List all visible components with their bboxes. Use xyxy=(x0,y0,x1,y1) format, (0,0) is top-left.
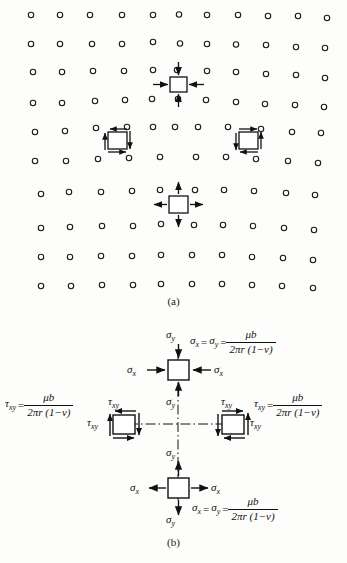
compression-element xyxy=(153,62,204,107)
caption-a: (a) xyxy=(0,295,347,307)
tau-xy-left-side: τxy xyxy=(87,417,98,431)
tension-element xyxy=(154,182,203,227)
shear-element-right xyxy=(236,129,261,152)
sigma-x-left-lower: σx xyxy=(130,482,139,496)
shear-element-right-b xyxy=(218,411,248,438)
panel-a-graphics xyxy=(0,0,347,563)
sigma-y-bottom-lower: σy xyxy=(166,514,175,528)
equation-tau-right: τxy = μb 2πr (1−v) xyxy=(254,392,322,418)
equation-tau-left: τxy = μb 2πr (1−v) xyxy=(5,392,73,418)
sigma-y-top-lower: σy xyxy=(166,447,175,461)
shear-element-left xyxy=(105,129,130,152)
equation-sigma-bottom: σx = σy = μb 2πr (1−v) xyxy=(192,496,278,522)
figure-root: σy σx σx σy τxy τxy τxy τxy σy σx σx σy … xyxy=(0,0,347,563)
lattice-atoms-below xyxy=(32,154,320,290)
tau-xy-left-top: τxy xyxy=(108,396,119,410)
sigma-x-left-upper: σx xyxy=(127,364,136,378)
caption-b: (b) xyxy=(0,536,347,548)
tau-xy-right-side: τxy xyxy=(250,417,261,431)
tau-xy-right-top: τxy xyxy=(221,396,232,410)
sigma-y-bottom-upper: σy xyxy=(166,396,175,410)
sigma-x-right-upper: σx xyxy=(214,364,223,378)
sigma-y-top-upper: σy xyxy=(166,329,175,343)
equation-sigma-top: σx = σy = μb 2πr (1−v) xyxy=(190,329,276,355)
sigma-x-right-lower: σx xyxy=(211,482,220,496)
shear-element-left-b xyxy=(110,411,139,438)
